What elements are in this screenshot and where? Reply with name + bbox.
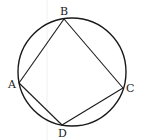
label-a: A — [7, 78, 17, 91]
quadrilateral-sides — [19, 19, 123, 125]
diagram-canvas: A B C D — [0, 0, 141, 140]
segment-da — [19, 83, 62, 125]
label-b: B — [60, 5, 68, 18]
segment-ab — [19, 19, 64, 83]
label-c: C — [126, 82, 134, 95]
label-d: D — [58, 127, 67, 140]
segment-bc — [64, 19, 123, 88]
